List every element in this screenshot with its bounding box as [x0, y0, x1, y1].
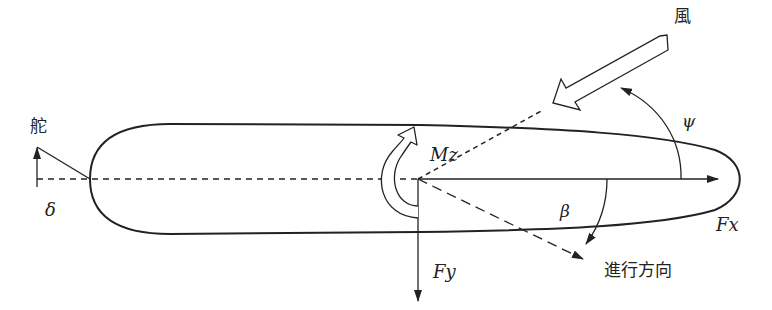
rudder-label: 舵	[30, 116, 47, 136]
rudder-angle-label: δ	[45, 199, 56, 220]
beta-angle-arc	[586, 179, 607, 244]
wind-angle-label: ψ	[682, 111, 696, 131]
rudder-line	[37, 147, 90, 179]
yaw-moment-label: Mz	[429, 144, 458, 165]
drift-angle-label: β	[559, 201, 570, 221]
fy-label: Fy	[432, 261, 456, 282]
ship-diagram: 舵 δ Mz 風 ψ β Fx Fy 進行方向	[0, 0, 772, 310]
fx-label: Fx	[715, 214, 739, 235]
heading-direction-label: 進行方向	[604, 260, 672, 280]
wind-label: 風	[674, 6, 691, 26]
mz-moment-arrow-icon	[381, 127, 418, 218]
heading-direction-line	[418, 179, 583, 259]
psi-angle-arc	[621, 88, 681, 179]
wind-arrow-icon	[553, 35, 668, 110]
